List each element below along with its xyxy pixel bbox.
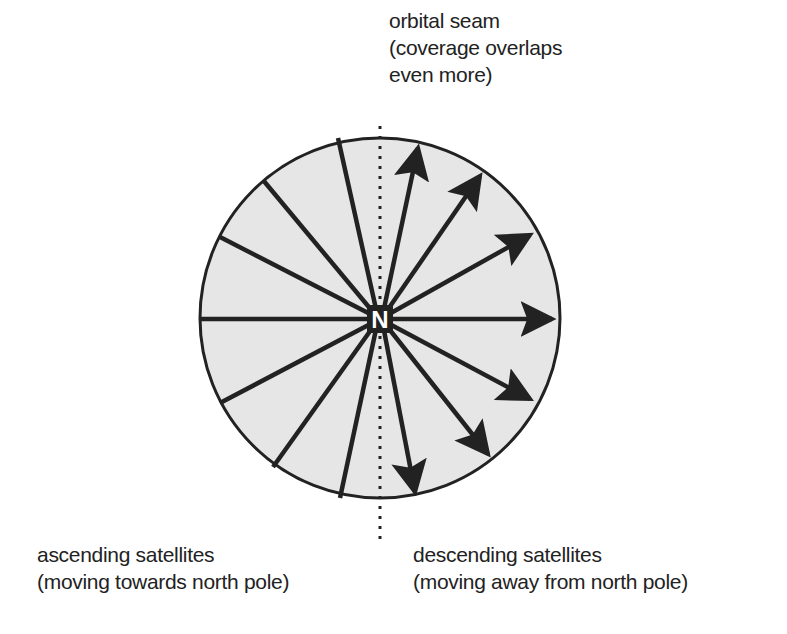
- ascending-label-line1: ascending satellites: [37, 541, 289, 568]
- ascending-satellites-label: ascending satellites(moving towards nort…: [37, 541, 289, 595]
- north-pole-label: N: [371, 306, 388, 333]
- ascending-label-line2: (moving towards north pole): [37, 568, 289, 595]
- descending-label-line1: descending satellites: [413, 541, 688, 568]
- polar-orbit-diagram: N: [0, 0, 787, 634]
- descending-label-line2: (moving away from north pole): [413, 568, 688, 595]
- descending-satellites-label: descending satellites(moving away from n…: [413, 541, 688, 595]
